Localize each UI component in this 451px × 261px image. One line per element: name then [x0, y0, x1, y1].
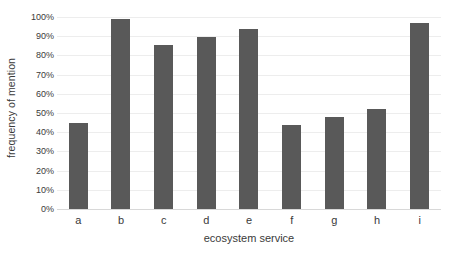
bar-slot	[270, 17, 313, 209]
bar-d[interactable]	[197, 37, 216, 209]
bar-e[interactable]	[239, 29, 258, 209]
bar-slot	[356, 17, 399, 209]
bar-slot	[142, 17, 185, 209]
x-axis-tick-label-d: d	[203, 212, 209, 228]
y-axis-tick-label: 100%	[20, 12, 54, 23]
bar-chart-figure: frequency of mention 0%10%20%30%40%50%60…	[0, 0, 451, 261]
x-axis-tick-label-h: h	[374, 212, 380, 228]
bar-f[interactable]	[282, 125, 301, 209]
bar-slot	[228, 17, 271, 209]
bar-slot	[100, 17, 143, 209]
y-axis-tick-label: 60%	[20, 88, 54, 99]
bar-g[interactable]	[325, 117, 344, 209]
y-axis-tick-label: 50%	[20, 108, 54, 119]
bar-a[interactable]	[69, 123, 88, 209]
y-axis-tick-label: 0%	[20, 204, 54, 215]
x-axis-tick-labels: abcdefghi	[57, 212, 441, 230]
x-axis-tick-label-e: e	[246, 212, 252, 228]
plot-area	[57, 17, 441, 209]
x-axis-tick-label-i: i	[418, 212, 420, 228]
y-axis-tick-label: 90%	[20, 31, 54, 42]
bar-slot	[185, 17, 228, 209]
x-axis-tick-label-f: f	[290, 212, 293, 228]
bar-slot	[313, 17, 356, 209]
x-axis-tick-label-c: c	[161, 212, 167, 228]
y-axis-tick-label: 80%	[20, 50, 54, 61]
bar-slot	[398, 17, 441, 209]
y-axis-tick-label: 20%	[20, 165, 54, 176]
y-axis-tick-label: 70%	[20, 69, 54, 80]
x-axis-title: ecosystem service	[57, 232, 441, 244]
bar-slot	[57, 17, 100, 209]
y-axis-tick-label: 40%	[20, 127, 54, 138]
gridline	[57, 209, 441, 210]
y-axis-title: frequency of mention	[0, 0, 22, 215]
bar-h[interactable]	[367, 109, 386, 209]
y-axis-title-label: frequency of mention	[5, 57, 17, 157]
bar-c[interactable]	[154, 45, 173, 209]
bar-b[interactable]	[111, 19, 130, 209]
bar-i[interactable]	[410, 23, 429, 209]
bars-layer	[57, 17, 441, 209]
y-axis-tick-label: 10%	[20, 184, 54, 195]
y-axis-tick-labels: 0%10%20%30%40%50%60%70%80%90%100%	[20, 11, 54, 215]
x-axis-tick-label-a: a	[75, 212, 81, 228]
x-axis-tick-label-g: g	[331, 212, 337, 228]
x-axis-tick-label-b: b	[118, 212, 124, 228]
y-axis-tick-label: 30%	[20, 146, 54, 157]
